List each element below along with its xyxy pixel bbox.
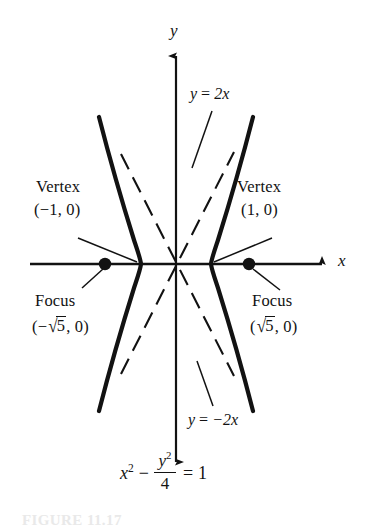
equation-x-var: x bbox=[120, 463, 128, 483]
vertex-left-title: Vertex bbox=[36, 178, 80, 196]
hyperbola-equation: x2 − y2 4 = 1 bbox=[120, 452, 207, 495]
x-axis-label: x bbox=[338, 252, 346, 270]
equation-right-side: 1 bbox=[198, 463, 207, 484]
equation-equals-sign: = bbox=[183, 463, 193, 484]
focus-left-radical: √5 bbox=[47, 317, 66, 336]
asymptote-upper-label: y=2x bbox=[190, 85, 229, 102]
focus-right-point bbox=[243, 258, 255, 270]
focus-left-coord-close: , 0) bbox=[66, 317, 89, 336]
leader-focus-right bbox=[253, 269, 280, 290]
focus-right-radicand: 5 bbox=[265, 316, 275, 335]
equation-minus-operator: − bbox=[139, 463, 149, 484]
vertex-right-title: Vertex bbox=[237, 178, 281, 196]
equation-fraction: y2 4 bbox=[154, 451, 176, 494]
asymptote-upper-rhs: 2x bbox=[214, 85, 229, 102]
graph-canvas bbox=[0, 0, 373, 528]
leader-vertex-right bbox=[214, 238, 272, 262]
focus-left-coord: (−√5, 0) bbox=[32, 317, 89, 336]
equation-x-exponent: 2 bbox=[128, 462, 134, 474]
equation-x-term: x2 bbox=[120, 463, 134, 484]
asymptote-lower-equals: = bbox=[199, 411, 208, 428]
hyperbola-figure: y x y=2x y=−2x Vertex (−1, 0) Vertex (1,… bbox=[0, 0, 373, 528]
focus-left-radicand: 5 bbox=[56, 316, 66, 335]
focus-right-title: Focus bbox=[252, 292, 292, 310]
figure-caption: FIGURE 11.17 bbox=[22, 512, 122, 528]
focus-right-radical: √5 bbox=[256, 317, 275, 336]
focus-left-point bbox=[99, 258, 111, 270]
focus-left-title: Focus bbox=[35, 292, 75, 310]
equation-frac-num-exponent: 2 bbox=[166, 449, 171, 461]
asymptote-lower-var: y bbox=[188, 411, 195, 428]
equation-frac-num-var: y bbox=[158, 451, 166, 470]
y-axis-label: y bbox=[170, 22, 178, 40]
asymptote-lower-rhs: −2x bbox=[212, 411, 238, 428]
asymptote-upper-var: y bbox=[190, 85, 197, 102]
vertex-right-coord: (1, 0) bbox=[241, 201, 278, 219]
focus-right-coord: (√5, 0) bbox=[250, 317, 297, 336]
focus-left-coord-open: (− bbox=[32, 317, 47, 336]
asymptote-upper-equals: = bbox=[201, 85, 210, 102]
leader-asymptote-upper bbox=[192, 111, 212, 168]
focus-right-coord-close: , 0) bbox=[275, 317, 298, 336]
equation-fraction-numerator: y2 bbox=[155, 451, 174, 472]
leader-asymptote-lower bbox=[197, 361, 213, 406]
axis-lines bbox=[30, 56, 322, 462]
vertex-left-coord: (−1, 0) bbox=[34, 201, 80, 219]
asymptote-lower-label: y=−2x bbox=[188, 411, 238, 428]
leader-focus-left bbox=[82, 269, 103, 288]
equation-fraction-denominator: 4 bbox=[158, 473, 173, 494]
